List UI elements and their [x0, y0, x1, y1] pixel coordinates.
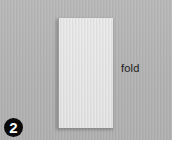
step-number-badge: 2 — [4, 118, 23, 137]
fold-annotation-label: fold — [121, 62, 140, 75]
instruction-illustration: fold 2 — [0, 0, 172, 143]
gray-background-photo: fold 2 — [0, 0, 172, 140]
paper-strip — [58, 18, 113, 128]
